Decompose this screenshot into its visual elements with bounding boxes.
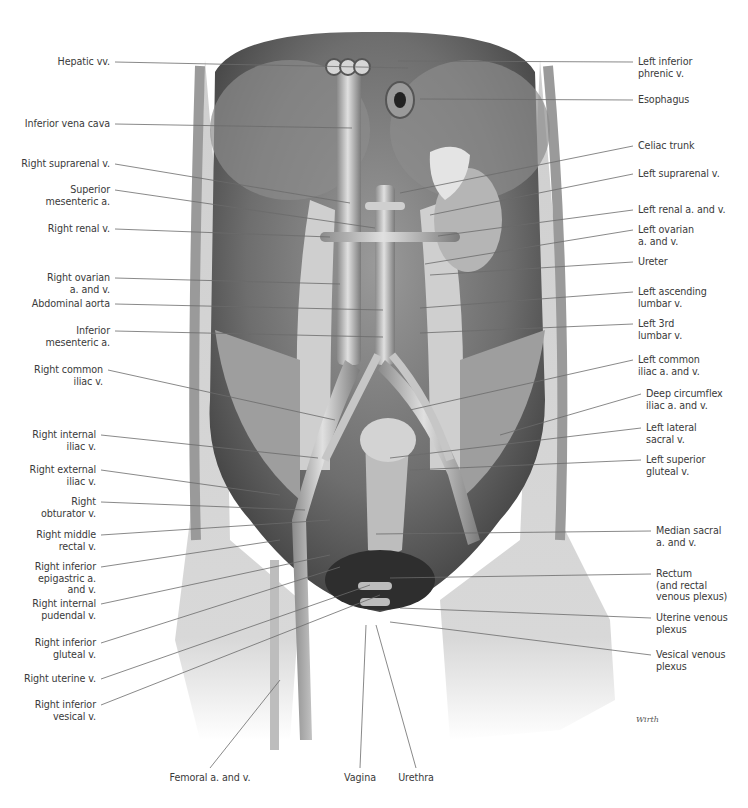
label-left: Right obturator v.: [41, 496, 96, 519]
label-left: Right inferior epigastric a. and v.: [35, 561, 96, 596]
label-left: Inferior vena cava: [25, 118, 110, 130]
artist-signature: Wirth: [636, 715, 659, 724]
label-right: Left suprarenal v.: [638, 168, 720, 180]
label-left: Right external iliac v.: [30, 464, 96, 487]
illustration: Wirth: [0, 0, 748, 808]
label-left: Right uterine v.: [24, 673, 96, 685]
label-left: Superior mesenteric a.: [46, 184, 110, 207]
label-right: Deep circumflex iliac a. and v.: [646, 388, 723, 411]
label-right: Left renal a. and v.: [638, 204, 725, 216]
label-left: Right ovarian a. and v.: [47, 272, 110, 295]
label-left: Right inferior vesical v.: [35, 699, 96, 722]
label-right: Left inferior phrenic v.: [638, 56, 692, 79]
label-right: Vesical venous plexus: [656, 649, 725, 672]
leader-line: [376, 625, 416, 768]
label-right: Left 3rd lumbar v.: [638, 318, 682, 341]
label-left: Right internal pudendal v.: [32, 598, 96, 621]
label-left: Right suprarenal v.: [21, 158, 110, 170]
label-left: Inferior mesenteric a.: [46, 325, 110, 348]
label-right: Left superior gluteal v.: [646, 454, 705, 477]
label-right: Celiac trunk: [638, 140, 694, 152]
label-left: Right common iliac v.: [34, 364, 103, 387]
label-left: Abdominal aorta: [32, 298, 110, 310]
label-right: Esophagus: [638, 94, 689, 106]
leader-line: [360, 625, 366, 768]
label-left: Right inferior gluteal v.: [35, 637, 96, 660]
label-right: Left ovarian a. and v.: [638, 224, 694, 247]
anatomy-figure: Wirth Hepatic vv.Inferior vena cavaRight…: [0, 0, 748, 808]
label-right: Left common iliac a. and v.: [638, 354, 700, 377]
label-left: Right internal iliac v.: [32, 429, 96, 452]
label-left: Right middle rectal v.: [36, 529, 96, 552]
label-bottom: Femoral a. and v.: [160, 772, 260, 784]
label-right: Left lateral sacral v.: [646, 422, 697, 445]
label-left: Hepatic vv.: [58, 56, 110, 68]
label-bottom: Urethra: [366, 772, 466, 784]
label-left: Right renal v.: [48, 223, 110, 235]
label-right: Uterine venous plexus: [656, 612, 728, 635]
label-right: Ureter: [638, 256, 668, 268]
label-right: Median sacral a. and v.: [656, 525, 721, 548]
label-right: Rectum (and rectal venous plexus): [656, 568, 727, 603]
label-right: Left ascending lumbar v.: [638, 286, 707, 309]
